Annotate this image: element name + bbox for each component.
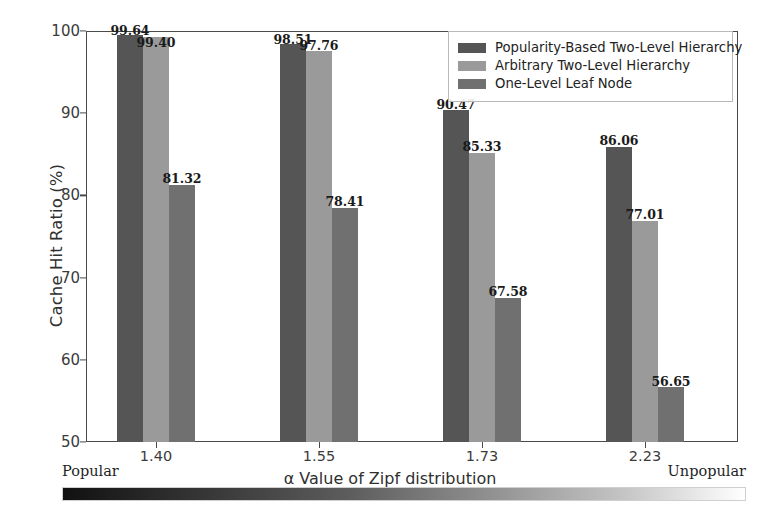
bar-s2-c1 xyxy=(332,208,358,442)
bar-value-label: 78.41 xyxy=(325,194,364,209)
bar-s1-c3 xyxy=(632,221,658,442)
bar-s0-c0 xyxy=(117,35,143,442)
y-tick-label: 90 xyxy=(0,104,80,122)
y-tick-label: 50 xyxy=(0,433,80,451)
chart-figure: Cache Hit Ratio (%) 100 90 80 70 60 50 xyxy=(0,0,780,522)
x-tick-label: 1.40 xyxy=(96,448,216,464)
legend-item[interactable]: Popularity-Based Two-Level Hierarchy xyxy=(458,39,723,56)
bar-s2-c2 xyxy=(495,298,521,442)
legend-label: Arbitrary Two-Level Hierarchy xyxy=(495,59,690,72)
bar-s1-c0 xyxy=(143,37,169,442)
bar-s2-c0 xyxy=(169,185,195,442)
bar-value-label: 86.06 xyxy=(599,133,638,148)
y-tick-label: 100 xyxy=(0,22,80,40)
legend-swatch-icon xyxy=(458,43,486,53)
bar-value-label: 81.32 xyxy=(162,171,201,186)
bar-value-label: 56.65 xyxy=(651,374,690,389)
bar-value-label: 67.58 xyxy=(488,284,527,299)
legend-label: Popularity-Based Two-Level Hierarchy xyxy=(495,41,742,54)
bar-s1-c1 xyxy=(306,51,332,443)
y-tick-label: 70 xyxy=(0,269,80,287)
x-tick-label: 1.73 xyxy=(422,448,542,464)
y-tick-label: 60 xyxy=(0,351,80,369)
legend-item[interactable]: One-Level Leaf Node xyxy=(458,75,723,92)
x-tick-label: 2.23 xyxy=(585,448,705,464)
bar-s0-c3 xyxy=(606,147,632,443)
bar-s2-c3 xyxy=(658,387,684,442)
legend-item[interactable]: Arbitrary Two-Level Hierarchy xyxy=(458,57,723,74)
legend-swatch-icon xyxy=(458,61,486,71)
legend: Popularity-Based Two-Level Hierarchy Arb… xyxy=(448,31,733,102)
legend-label: One-Level Leaf Node xyxy=(495,77,632,90)
y-axis-label: Cache Hit Ratio (%) xyxy=(47,36,66,456)
gradient-left-label: Popular xyxy=(62,463,119,479)
bar-s0-c1 xyxy=(280,44,306,442)
legend-swatch-icon xyxy=(458,79,486,89)
gradient-right-label: Unpopular xyxy=(668,463,746,479)
y-tick-label: 80 xyxy=(0,186,80,204)
x-tick-label: 1.55 xyxy=(259,448,379,464)
bar-value-label: 77.01 xyxy=(625,207,664,222)
popularity-gradient-bar xyxy=(62,487,746,501)
bar-s0-c2 xyxy=(443,110,469,442)
bar-value-label: 99.40 xyxy=(136,35,175,50)
bar-value-label: 85.33 xyxy=(462,139,501,154)
bar-value-label: 97.76 xyxy=(299,38,338,53)
